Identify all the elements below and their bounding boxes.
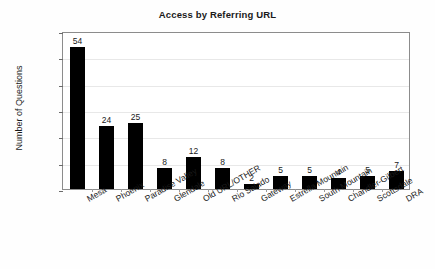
y-tick-mark — [59, 33, 63, 34]
bar-value-label: 25 — [121, 112, 151, 122]
chart-title: Access by Referring URL — [0, 9, 435, 20]
y-tick-mark — [59, 165, 63, 166]
bar-value-label: 8 — [208, 157, 238, 167]
gridline — [63, 112, 409, 113]
bar-value-label: 5 — [266, 165, 296, 175]
y-axis-title: Number of Questions — [14, 43, 24, 173]
gridline — [63, 86, 409, 87]
bar — [99, 126, 114, 189]
bar-chart: Access by Referring URL Number of Questi… — [0, 0, 435, 269]
bar-value-label: 5 — [295, 165, 325, 175]
plot-area: 5424258128255457 — [62, 32, 410, 190]
y-tick-mark — [59, 59, 63, 60]
y-tick-mark — [59, 86, 63, 87]
bar-value-label: 12 — [179, 146, 209, 156]
y-tick-mark — [59, 112, 63, 113]
gridline — [63, 138, 409, 139]
bar-value-label: 54 — [63, 36, 93, 46]
bar-value-label: 24 — [92, 115, 122, 125]
gridline — [63, 59, 409, 60]
bar — [70, 47, 85, 189]
y-tick-mark — [59, 191, 63, 192]
bar-value-label: 8 — [150, 157, 180, 167]
y-tick-mark — [59, 138, 63, 139]
